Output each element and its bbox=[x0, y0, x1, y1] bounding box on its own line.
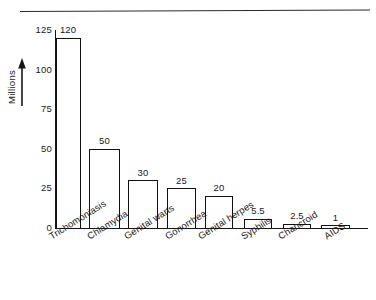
bar-value-gonorrhea: 25 bbox=[176, 176, 187, 186]
y-tick-labels: 0 25 50 75 100 125 bbox=[4, 0, 52, 300]
y-tick-label-100: 100 bbox=[8, 65, 52, 75]
bar-value-genital-warts: 30 bbox=[138, 168, 149, 178]
y-tick-label-125: 125 bbox=[8, 25, 52, 35]
y-tick-label-75: 75 bbox=[8, 104, 52, 114]
bar-value-genital-herpes: 20 bbox=[214, 183, 225, 193]
bar-trichomoniasis bbox=[56, 38, 81, 228]
bar-value-chlamydia: 50 bbox=[99, 136, 110, 146]
y-tick-label-50: 50 bbox=[8, 144, 52, 154]
bar-chart: Millions 0 25 50 75 100 125 120503025205… bbox=[0, 0, 376, 300]
y-tick-label-0: 0 bbox=[8, 223, 52, 233]
x-label-aids: AIDS bbox=[322, 220, 347, 241]
plot-area: Millions 0 25 50 75 100 125 120503025205… bbox=[0, 0, 376, 300]
y-tick-label-25: 25 bbox=[8, 183, 52, 193]
bar-value-trichomoniasis: 120 bbox=[60, 25, 76, 35]
